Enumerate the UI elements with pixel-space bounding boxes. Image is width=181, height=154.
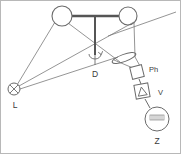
label-photodetector: Ph [149, 65, 158, 74]
label-oscilloscope: Z [154, 136, 159, 146]
oscilloscope-icon [145, 107, 169, 131]
label-disk: D [92, 69, 98, 79]
photodetector-icon [130, 65, 145, 80]
label-amplifier: V [158, 88, 163, 97]
amplifier-icon [134, 83, 150, 99]
figure-container: L D Ph V Z [0, 0, 181, 154]
light-source-icon [8, 83, 20, 95]
left-wheel [52, 6, 72, 26]
label-lamp: L [13, 100, 18, 110]
schematic-diagram: L D Ph V Z [0, 0, 181, 154]
